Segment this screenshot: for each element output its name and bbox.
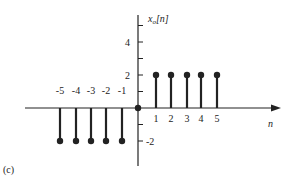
- stem-marker: [73, 138, 79, 144]
- stem-marker: [214, 72, 220, 78]
- x-tick-label: 3: [185, 113, 190, 124]
- stem-marker: [153, 72, 159, 78]
- stem-marker: [88, 138, 94, 144]
- y-tick-label: 2: [125, 70, 130, 81]
- x-axis-arrow-icon: [271, 105, 281, 112]
- stem-marker: [119, 138, 125, 144]
- x-tick-label: 2: [169, 113, 174, 124]
- stem-marker: [135, 105, 141, 111]
- panel-label: (c): [3, 164, 14, 176]
- x-tick-label: -5: [56, 85, 64, 96]
- x-axis-label: n: [268, 118, 273, 129]
- x-tick-label: 4: [199, 113, 204, 124]
- stem-marker: [168, 72, 174, 78]
- x-tick-label: 1: [154, 113, 159, 124]
- x-tick-label: -3: [87, 85, 95, 96]
- y-axis-label: xo[n]: [147, 13, 169, 26]
- stem-marker: [198, 72, 204, 78]
- x-tick-label: -4: [72, 85, 80, 96]
- stem-plot: -5-4-3-2-11234542-2xo[n]n(c): [0, 0, 291, 183]
- x-tick-label: 5: [215, 113, 220, 124]
- stem-marker: [57, 138, 63, 144]
- x-tick-label: -1: [118, 85, 126, 96]
- x-tick-label: -2: [102, 85, 110, 96]
- y-tick-label: 4: [125, 37, 130, 48]
- stem-marker: [103, 138, 109, 144]
- y-tick-label: -2: [146, 136, 154, 147]
- stem-marker: [184, 72, 190, 78]
